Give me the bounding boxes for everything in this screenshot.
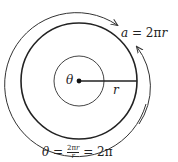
center-dot: [77, 79, 82, 84]
angle-equation: θ = 2πrr = 2π: [42, 145, 113, 160]
arc-length-label: a = 2πr: [121, 26, 167, 40]
circle-diagram: [0, 0, 178, 162]
arc-arrow-right: [137, 47, 150, 124]
radius-label: r: [113, 83, 119, 97]
theta-label: θ: [66, 73, 73, 87]
